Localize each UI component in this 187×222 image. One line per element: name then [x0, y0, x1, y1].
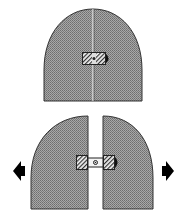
- diagram-canvas: [0, 0, 187, 222]
- right-arrow-icon: [162, 161, 174, 181]
- left-arrow-icon: [13, 161, 25, 181]
- turnbuckle-screw-open: [76, 155, 118, 170]
- closed-assembly: [44, 9, 142, 101]
- open-assembly: [31, 116, 153, 209]
- turnbuckle-screw-closed: [82, 52, 109, 65]
